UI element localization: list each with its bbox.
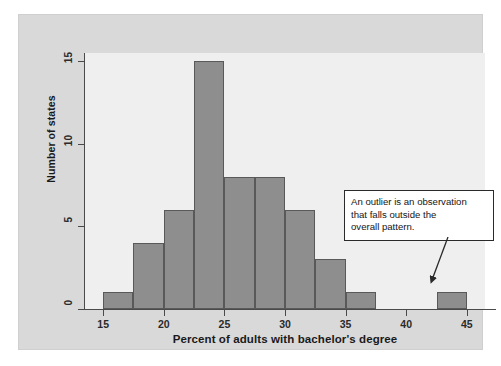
x-axis-line <box>78 309 496 310</box>
y-tick <box>78 226 84 227</box>
x-tick <box>467 310 468 316</box>
figure-panel: 051015 15202530354045 Number of states P… <box>18 14 483 350</box>
histogram-bar <box>194 61 224 309</box>
histogram-bar <box>133 243 163 309</box>
y-tick-label: 0 <box>63 300 75 306</box>
histogram-bar <box>164 210 194 309</box>
annotation-line-2: that falls outside the <box>351 209 487 222</box>
y-tick <box>78 309 84 310</box>
x-tick <box>406 310 407 316</box>
y-tick-label: 15 <box>63 52 75 63</box>
histogram-bar <box>437 292 467 309</box>
y-axis-line <box>84 53 85 309</box>
y-axis-title: Number of states <box>45 79 57 199</box>
x-tick-label: 45 <box>455 318 479 330</box>
x-tick <box>224 310 225 316</box>
x-tick-label: 15 <box>91 318 115 330</box>
y-tick <box>78 61 84 62</box>
outlier-annotation-box: An outlier is an observation that falls … <box>344 190 494 241</box>
x-tick-label: 20 <box>152 318 176 330</box>
x-tick <box>285 310 286 316</box>
annotation-line-3: overall pattern. <box>351 221 487 234</box>
histogram-bar <box>103 292 133 309</box>
y-tick-label: 5 <box>63 217 75 223</box>
annotation-line-1: An outlier is an observation <box>351 196 487 209</box>
x-tick <box>103 310 104 316</box>
histogram-bar <box>315 259 345 309</box>
x-tick-label: 40 <box>394 318 418 330</box>
histogram-bar <box>346 292 376 309</box>
x-tick <box>164 310 165 316</box>
histogram-bar <box>255 177 285 309</box>
x-axis-title: Percent of adults with bachelor's degree <box>85 333 485 345</box>
x-tick <box>346 310 347 316</box>
x-tick-label: 35 <box>334 318 358 330</box>
x-tick-label: 25 <box>212 318 236 330</box>
y-tick <box>78 144 84 145</box>
histogram-bar <box>224 177 254 309</box>
x-tick-label: 30 <box>273 318 297 330</box>
figure-root: 051015 15202530354045 Number of states P… <box>0 0 501 366</box>
histogram-bar <box>285 210 315 309</box>
y-tick-label: 10 <box>63 135 75 146</box>
